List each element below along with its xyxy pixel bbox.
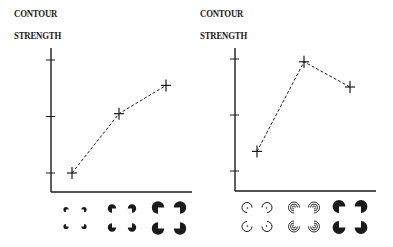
pacman-medium-icon xyxy=(108,204,136,231)
pacman-small-icon xyxy=(63,207,86,229)
pacman-large-icon xyxy=(152,201,186,234)
chart-panel-2 xyxy=(230,48,376,234)
figure-canvas xyxy=(0,0,393,247)
arc-concentric-icon xyxy=(289,202,320,232)
data-point-1-3 xyxy=(161,79,171,91)
data-point-2-1 xyxy=(252,145,262,157)
data-point-2-2 xyxy=(299,56,309,68)
data-point-2-3 xyxy=(345,81,355,93)
pacman-solid-icon xyxy=(333,200,368,234)
chart-panel-1 xyxy=(46,48,192,235)
series-line-1 xyxy=(72,85,166,173)
series-line-2 xyxy=(257,62,350,152)
arc-single-icon xyxy=(242,203,272,232)
